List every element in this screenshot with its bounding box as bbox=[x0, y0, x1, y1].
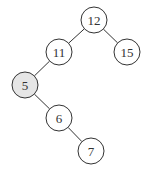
node-label: 7 bbox=[88, 144, 95, 159]
node-label: 12 bbox=[88, 13, 101, 28]
edge-12-15 bbox=[103, 29, 117, 43]
tree-node-6: 6 bbox=[46, 105, 72, 131]
tree-node-5: 5 bbox=[12, 72, 38, 98]
tree-node-7: 7 bbox=[78, 138, 104, 164]
tree-diagram: 121115567 bbox=[0, 0, 145, 178]
tree-node-12: 12 bbox=[81, 7, 107, 33]
node-label: 5 bbox=[22, 78, 29, 93]
edge-11-5 bbox=[34, 61, 49, 76]
edge-12-11 bbox=[69, 29, 85, 43]
node-label: 6 bbox=[56, 111, 63, 126]
tree-node-11: 11 bbox=[46, 39, 72, 65]
edge-6-7 bbox=[68, 127, 82, 141]
tree-node-15: 15 bbox=[114, 39, 140, 65]
node-label: 15 bbox=[121, 45, 134, 60]
edges bbox=[34, 29, 117, 142]
node-label: 11 bbox=[53, 45, 66, 60]
nodes: 121115567 bbox=[12, 7, 140, 164]
edge-5-6 bbox=[34, 94, 49, 109]
